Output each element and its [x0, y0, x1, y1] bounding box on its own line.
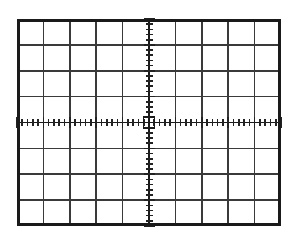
graticule-canvas: [0, 0, 297, 234]
oscilloscope-graticule-figure: [0, 0, 297, 234]
